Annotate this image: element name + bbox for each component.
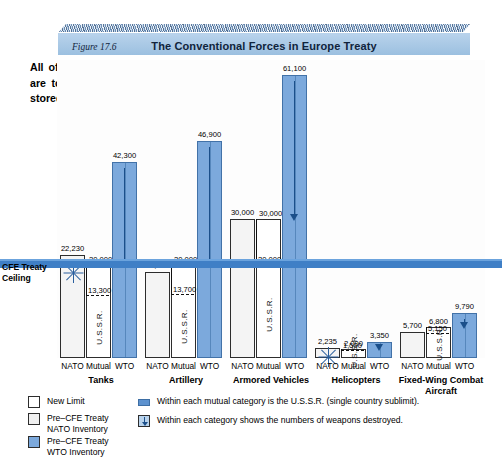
value-label-mutual: 30,000 [259, 209, 282, 218]
cfe-treaty-ceiling-highlight [0, 259, 502, 261]
arrow-shaft [209, 147, 210, 261]
weapons-destroyed-arrow [375, 349, 384, 351]
arrow-shaft [124, 168, 125, 260]
bar-group: 5,7006,800U.S.S.R.5,1509,790 [400, 60, 482, 358]
axis-group-label: Helicopters [309, 375, 403, 386]
new-limit-swatch [28, 396, 40, 408]
bar-nato [230, 219, 255, 358]
bar-group: 18,50020,000U.S.S.R.13,70046,900 [145, 60, 227, 358]
ussr-sublimit-tick [86, 265, 87, 296]
value-label-ussr: 13,300 [88, 286, 111, 295]
bar-nato [400, 332, 425, 358]
legend-item: Pre–CFE Treaty WTO Inventory [28, 436, 109, 457]
value-label-ussr: 5,150 [428, 324, 447, 333]
ussr-sublimit-line [86, 295, 109, 296]
legend-item-label: Pre–CFE Treaty WTO Inventory [47, 436, 109, 457]
value-label-wto: 42,300 [113, 151, 136, 160]
axis-group-label: Fixed-Wing Combat Aircraft [394, 375, 488, 396]
ussr-sublimit-tick [341, 349, 342, 351]
bar-nato [145, 272, 170, 358]
weapons-destroyed-arrow [205, 147, 214, 268]
arrow-head [375, 344, 383, 351]
figure-title: The Conventional Forces in Europe Treaty [66, 40, 462, 52]
axis-group-label: Artillery [139, 375, 233, 386]
arrow-head [460, 322, 468, 329]
sublimit-bar-icon [138, 399, 150, 406]
value-label-ussr: 1,500 [343, 341, 362, 350]
wto-inventory-swatch [28, 436, 40, 448]
value-label-wto: 9,790 [455, 302, 474, 311]
legend-item-label: Pre–CFE Treaty NATO Inventory [47, 413, 109, 434]
ussr-sublimit-label: U.S.S.R. [264, 297, 273, 331]
value-label-nato: 30,000 [231, 208, 254, 217]
weapons-destroyed-arrow [120, 168, 129, 267]
bar-group: 30,00030,000U.S.S.R.20,00061,100 [230, 60, 312, 358]
ussr-sublimit-tick [426, 327, 427, 335]
legend-note: Within each mutual category is the U.S.S… [138, 396, 483, 407]
arrow-head [290, 214, 298, 221]
value-label-nato: 5,700 [403, 321, 422, 330]
legend-note: Within each category shows the numbers o… [138, 415, 483, 427]
legend-item: Pre–CFE Treaty NATO Inventory [28, 413, 109, 434]
chart-plot-area: 22,23020,000U.S.S.R.13,30042,30018,50020… [57, 60, 485, 358]
value-label-wto: 46,900 [198, 130, 221, 139]
ussr-sublimit-label: U.S.S.R. [179, 310, 188, 344]
axis-group-label: Tanks [54, 375, 148, 386]
ussr-sublimit-tick [171, 265, 172, 294]
weapons-destroyed-arrow [290, 81, 299, 221]
bar-mutual [256, 219, 281, 358]
axis-label-wto: WTO [448, 361, 481, 371]
legend-note-label: Within each mutual category is the U.S.S… [157, 396, 419, 407]
chart-legend: New LimitPre–CFE Treaty NATO InventoryPr… [28, 396, 483, 456]
weapons-destroyed-burst [318, 337, 338, 357]
axis-label-wto: WTO [108, 361, 141, 371]
ussr-sublimit-line [171, 294, 194, 295]
weapons-destroyed-arrow [460, 319, 469, 329]
arrow-shaft [294, 81, 295, 214]
ussr-sublimit-label: U.S.S.R. [94, 310, 103, 344]
axis-label-wto: WTO [193, 361, 226, 371]
nato-inventory-swatch [28, 413, 40, 425]
axis-label-wto: WTO [278, 361, 311, 371]
ceiling-label: CFE Treaty Ceiling [2, 262, 54, 283]
bar-group: 2,2352,000U.S.S.R.1,5003,350 [315, 60, 397, 358]
figure-banner: Figure 17.6 The Conventional Forces in E… [58, 24, 470, 54]
legend-item-label: New Limit [47, 396, 85, 407]
down-arrow-box-icon [138, 415, 150, 427]
legend-item: New Limit [28, 396, 85, 408]
banner-face: Figure 17.6 The Conventional Forces in E… [58, 32, 470, 55]
bar-group: 22,23020,000U.S.S.R.13,30042,300 [60, 60, 142, 358]
axis-group-label: Armored Vehicles [224, 375, 318, 386]
value-label-wto: 61,100 [283, 64, 306, 73]
axis-label-wto: WTO [363, 361, 396, 371]
ussr-sublimit-line [426, 333, 449, 334]
value-label-nato: 22,230 [61, 244, 84, 253]
legend-note-label: Within each category shows the numbers o… [157, 415, 403, 426]
ussr-sublimit-line [341, 350, 364, 351]
cfe-treaty-ceiling-line [0, 261, 502, 268]
value-label-ussr: 13,700 [173, 285, 196, 294]
value-label-wto: 3,350 [370, 331, 389, 340]
